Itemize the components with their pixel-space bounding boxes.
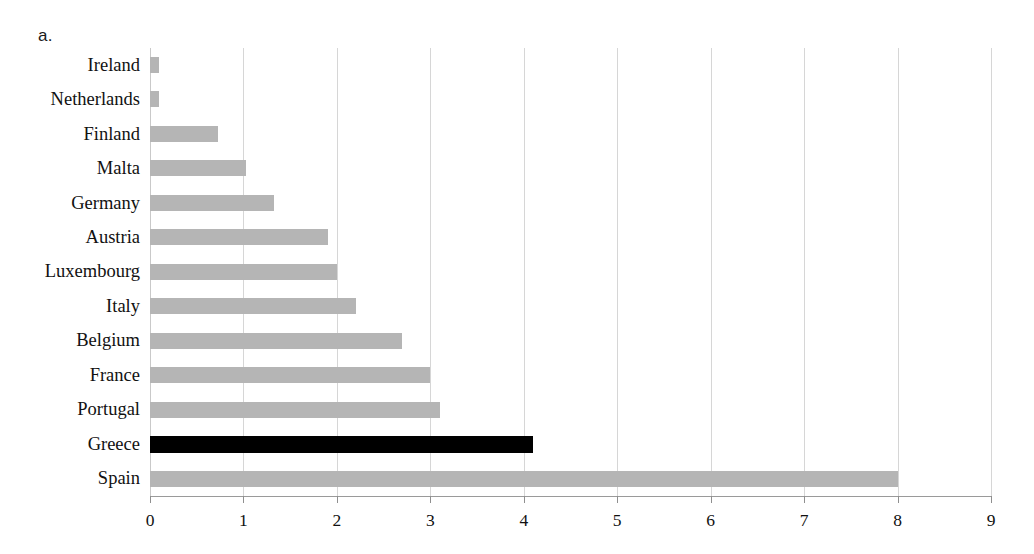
bar-row — [150, 358, 991, 392]
x-tick-label-8: 8 — [878, 510, 918, 531]
chart-figure: a. IrelandNetherlandsFinlandMaltaGermany… — [0, 0, 1034, 554]
bar-row — [150, 289, 991, 323]
y-tick-label-ireland: Ireland — [0, 48, 140, 82]
gridline-9 — [991, 48, 992, 496]
bar-austria — [150, 229, 328, 245]
category-label: Luxembourg — [0, 261, 140, 282]
category-label: Italy — [0, 296, 140, 317]
bar-row — [150, 427, 991, 461]
bar-row — [150, 462, 991, 496]
bar-france — [150, 367, 430, 383]
x-tick-0 — [150, 496, 151, 503]
bar-spain — [150, 471, 898, 487]
category-label: Finland — [0, 124, 140, 145]
x-tick-label-9: 9 — [971, 510, 1011, 531]
y-tick-label-italy: Italy — [0, 289, 140, 323]
category-label: Belgium — [0, 330, 140, 351]
bar-row — [150, 393, 991, 427]
x-tick-label-6: 6 — [691, 510, 731, 531]
x-tick-label-5: 5 — [597, 510, 637, 531]
x-tick-6 — [711, 496, 712, 503]
y-tick-label-finland: Finland — [0, 117, 140, 151]
category-label: France — [0, 365, 140, 386]
category-label: Netherlands — [0, 89, 140, 110]
bar-greece — [150, 436, 533, 453]
category-label: Greece — [0, 434, 140, 455]
x-tick-label-4: 4 — [504, 510, 544, 531]
bar-row — [150, 48, 991, 82]
bar-luxembourg — [150, 264, 337, 280]
x-tick-5 — [617, 496, 618, 503]
panel-label: a. — [38, 26, 53, 46]
category-label: Spain — [0, 468, 140, 489]
x-axis-line — [150, 496, 992, 497]
y-tick-label-malta: Malta — [0, 151, 140, 185]
bar-germany — [150, 195, 274, 211]
y-tick-label-portugal: Portugal — [0, 393, 140, 427]
category-label: Ireland — [0, 55, 140, 76]
bar-row — [150, 220, 991, 254]
bar-ireland — [150, 57, 159, 73]
bar-row — [150, 255, 991, 289]
y-tick-label-netherlands: Netherlands — [0, 82, 140, 116]
y-axis-category-labels: IrelandNetherlandsFinlandMaltaGermanyAus… — [0, 48, 140, 496]
y-tick-label-luxembourg: Luxembourg — [0, 255, 140, 289]
bar-belgium — [150, 333, 402, 349]
x-tick-8 — [898, 496, 899, 503]
x-tick-label-2: 2 — [317, 510, 357, 531]
x-tick-label-0: 0 — [130, 510, 170, 531]
x-tick-2 — [337, 496, 338, 503]
bar-row — [150, 151, 991, 185]
x-tick-label-1: 1 — [223, 510, 263, 531]
category-label: Malta — [0, 158, 140, 179]
y-tick-label-france: France — [0, 358, 140, 392]
plot-area — [150, 48, 991, 496]
x-tick-7 — [804, 496, 805, 503]
category-label: Germany — [0, 193, 140, 214]
bar-portugal — [150, 402, 440, 418]
x-tick-label-3: 3 — [410, 510, 450, 531]
bar-row — [150, 186, 991, 220]
bar-row — [150, 117, 991, 151]
bar-row — [150, 82, 991, 116]
y-tick-label-greece: Greece — [0, 427, 140, 461]
bar-finland — [150, 126, 218, 142]
bar-row — [150, 324, 991, 358]
y-tick-label-germany: Germany — [0, 186, 140, 220]
bar-italy — [150, 298, 356, 314]
y-tick-label-austria: Austria — [0, 220, 140, 254]
y-tick-label-spain: Spain — [0, 462, 140, 496]
bar-netherlands — [150, 91, 159, 107]
x-tick-label-7: 7 — [784, 510, 824, 531]
x-tick-1 — [243, 496, 244, 503]
category-label: Austria — [0, 227, 140, 248]
x-tick-3 — [430, 496, 431, 503]
category-label: Portugal — [0, 399, 140, 420]
bar-malta — [150, 160, 246, 176]
x-tick-4 — [524, 496, 525, 503]
y-tick-label-belgium: Belgium — [0, 324, 140, 358]
x-tick-9 — [991, 496, 992, 503]
